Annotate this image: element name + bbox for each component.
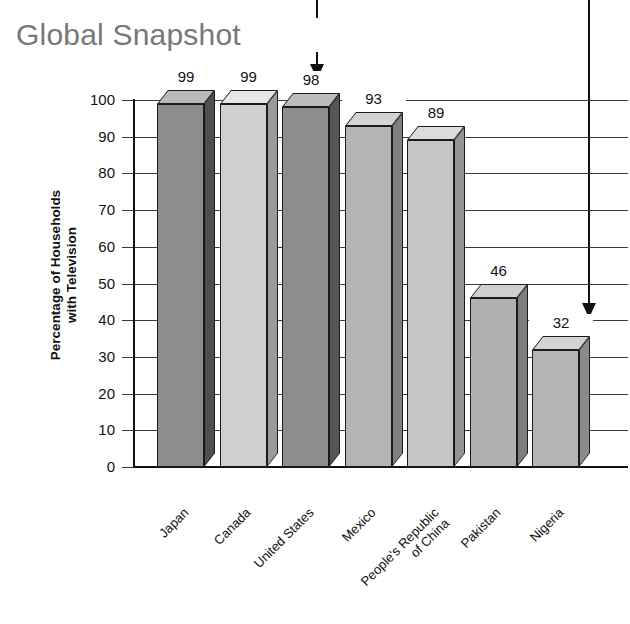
y-tick-80: [122, 173, 133, 174]
bar-side-face: [329, 93, 340, 467]
y-axis-title-line-1: Percentage of Households: [48, 110, 64, 440]
bar-pakistan: [470, 284, 528, 467]
y-tick-label-0: 0: [63, 458, 115, 475]
bar-value-label: 99: [154, 68, 218, 85]
bar-mexico: [345, 112, 403, 467]
bar-value-label: 32: [529, 314, 593, 331]
y-tick-label-80: 80: [63, 164, 115, 181]
callout-stem-upper: [316, 0, 318, 18]
y-tick-90: [122, 137, 133, 138]
bar-side-face: [579, 336, 590, 467]
y-tick-50: [122, 284, 133, 285]
bar-united-states: [282, 93, 340, 467]
bar-side-face: [204, 90, 215, 467]
bar-value-label: 93: [342, 90, 406, 107]
bar-side-face: [392, 112, 403, 467]
chart-root: Global Snapshot Percentage of Households…: [0, 0, 630, 624]
bar-front-face: [157, 104, 204, 467]
y-tick-label-60: 60: [63, 238, 115, 255]
bar-nigeria: [532, 336, 590, 467]
bar-side-face: [454, 126, 465, 467]
y-tick-0: [122, 467, 133, 468]
y-tick-label-10: 10: [63, 421, 115, 438]
bar-japan: [157, 90, 215, 467]
y-axis-line: [133, 99, 135, 468]
y-tick-label-40: 40: [63, 311, 115, 328]
bar-front-face: [532, 350, 579, 467]
y-tick-40: [122, 320, 133, 321]
page-title: Global Snapshot: [16, 18, 241, 52]
y-tick-100: [122, 100, 133, 101]
y-tick-70: [122, 210, 133, 211]
bar-front-face: [345, 126, 392, 467]
y-tick-60: [122, 247, 133, 248]
bar-side-face: [267, 90, 278, 467]
y-tick-20: [122, 394, 133, 395]
y-tick-label-30: 30: [63, 348, 115, 365]
y-tick-30: [122, 357, 133, 358]
bar-front-face: [220, 104, 267, 467]
bar-people-s-republic-of-china: [407, 126, 465, 467]
callout-stem: [588, 0, 590, 305]
bar-side-face: [517, 284, 528, 467]
y-tick-label-20: 20: [63, 385, 115, 402]
bar-front-face: [470, 298, 517, 467]
bar-front-face: [282, 107, 329, 467]
y-tick-10: [122, 430, 133, 431]
y-tick-label-70: 70: [63, 201, 115, 218]
bar-front-face: [407, 140, 454, 467]
y-tick-label-100: 100: [63, 91, 115, 108]
bar-value-label: 99: [217, 68, 281, 85]
y-tick-label-90: 90: [63, 128, 115, 145]
bar-value-label: 98: [279, 71, 343, 88]
bar-canada: [220, 90, 278, 467]
y-tick-label-50: 50: [63, 275, 115, 292]
bar-value-label: 46: [467, 262, 531, 279]
bar-value-label: 89: [404, 104, 468, 121]
